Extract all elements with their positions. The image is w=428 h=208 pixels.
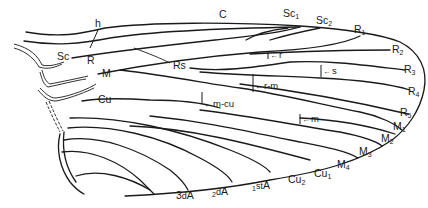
label-media: M [102, 68, 111, 79]
label-costa: C [219, 9, 227, 20]
hind-margin [58, 134, 84, 194]
humeral-pointer [90, 30, 98, 48]
cu1-vein [70, 118, 270, 172]
label-cross-vein-m: ←m [302, 114, 319, 124]
m3-vein [150, 116, 358, 158]
label-cubitus: Cu [98, 94, 111, 105]
radial-sector-main [190, 62, 405, 70]
label-cu2: Cu2 [288, 174, 305, 186]
label-r1: R1 [354, 24, 366, 36]
label-m2: M2 [381, 133, 394, 145]
anal-vein-1 [64, 139, 188, 190]
label-r3: R3 [404, 64, 416, 76]
anal-vein-3 [76, 173, 150, 190]
label-cross-vein-s: ←s [323, 66, 337, 76]
m4-vein [130, 126, 310, 160]
label-m1: M1 [393, 121, 406, 133]
label-sc2: Sc2 [316, 15, 332, 27]
label-cross-vein-r: ←r [270, 50, 282, 60]
label-sc1: Sc1 [283, 8, 299, 20]
label-3d-anal: 3dA [176, 190, 194, 201]
label-r4: R4 [408, 86, 420, 98]
jugal-fold [46, 102, 60, 132]
label-1st-anal: 1stA [252, 180, 270, 192]
label-2d-anal: 2dA [212, 186, 228, 198]
label-radial-sector: Rs [173, 60, 186, 71]
label-cu1: Cu1 [314, 168, 331, 180]
label-radius: R [87, 55, 95, 66]
label-cross-vein-m-cu: ←m-cu [204, 99, 234, 109]
label-humeral: h [95, 18, 101, 29]
label-r2: R2 [392, 44, 404, 56]
label-cross-vein-r-m: ←r-m [255, 81, 278, 91]
costa-vein [26, 23, 425, 196]
radius-vein [42, 70, 88, 84]
label-m3: M3 [359, 146, 372, 158]
label-r5: R5 [400, 107, 412, 119]
label-m4: M4 [337, 159, 350, 171]
label-subcosta: Sc [57, 51, 69, 62]
radial-sector-vein [134, 48, 170, 63]
